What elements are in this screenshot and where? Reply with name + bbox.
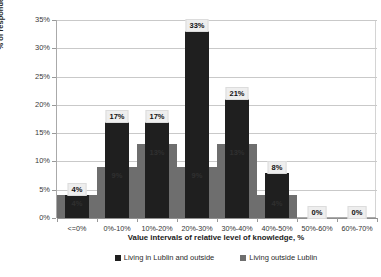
legend-label: Living in Lublin and outside	[124, 253, 214, 262]
x-axis-tick-label: 10%-20%	[141, 224, 172, 233]
data-label-series-a: 21%	[225, 87, 248, 100]
x-axis-tick-mark	[297, 218, 298, 222]
y-axis-tick-mark	[52, 161, 56, 162]
data-label-series-a: 0%	[308, 206, 327, 219]
y-axis-tick-mark	[52, 20, 56, 21]
y-axis-tick-mark	[52, 48, 56, 49]
chart-container: 4%17%17%33%21%8%0%0%4%9%13%9%13%4% <=0%0…	[0, 0, 381, 277]
y-axis-tick-label: 30%	[14, 44, 50, 52]
y-axis-tick-label: 5%	[14, 186, 50, 194]
x-axis-tick-mark	[137, 218, 138, 222]
legend-label: Living outside Lublin	[249, 253, 317, 262]
y-axis-tick-label: 25%	[14, 73, 50, 81]
y-axis-title: % of respondents	[0, 0, 5, 78]
y-axis-tick-mark	[52, 133, 56, 134]
data-label-series-a: 0%	[348, 206, 367, 219]
x-axis-tick-label: <=0%	[68, 224, 87, 233]
data-label-series-a: 4%	[68, 183, 87, 196]
data-label-series-b: 4%	[69, 198, 86, 209]
data-label-series-b: 13%	[146, 147, 167, 158]
x-axis-tick-label: 20%-30%	[181, 224, 212, 233]
x-axis-tick-mark	[57, 218, 58, 222]
data-label-series-b: 13%	[226, 147, 247, 158]
x-axis-title: Value intervals of relative level of kno…	[56, 233, 376, 242]
x-axis-tick-mark	[337, 218, 338, 222]
y-axis-tick-label: 35%	[14, 16, 50, 24]
data-label-series-a: 17%	[145, 110, 168, 123]
y-axis-tick-mark	[52, 218, 56, 219]
x-axis-tick-label: 0%-10%	[103, 224, 130, 233]
plot-area: 4%17%17%33%21%8%0%0%4%9%13%9%13%4% <=0%0…	[56, 20, 376, 218]
legend-swatch-icon	[115, 255, 121, 261]
data-label-series-b: 9%	[109, 170, 126, 181]
x-axis-tick-label: 60%-70%	[341, 224, 372, 233]
legend-item[interactable]: Living in Lublin and outside	[115, 253, 214, 262]
y-axis-tick-mark	[52, 77, 56, 78]
legend-item[interactable]: Living outside Lublin	[240, 253, 317, 262]
data-label-series-b: 4%	[269, 198, 286, 209]
y-axis-tick-label: 10%	[14, 157, 50, 165]
x-axis-tick-label: 40%-50%	[261, 224, 292, 233]
x-axis-tick-mark	[177, 218, 178, 222]
y-axis-tick-mark	[52, 105, 56, 106]
y-axis-tick-label: 0%	[14, 214, 50, 222]
y-axis-tick-label: 15%	[14, 129, 50, 137]
y-axis-tick-mark	[52, 190, 56, 191]
x-axis-tick-label: 50%-60%	[301, 224, 332, 233]
data-labels: 4%17%17%33%21%8%0%0%4%9%13%9%13%4%	[57, 20, 377, 218]
x-axis-tick-mark	[377, 218, 378, 222]
legend-swatch-icon	[240, 255, 246, 261]
x-axis-tick-mark	[257, 218, 258, 222]
data-label-series-b: 9%	[189, 170, 206, 181]
x-axis-tick-label: 30%-40%	[221, 224, 252, 233]
data-label-series-a: 8%	[268, 161, 287, 174]
x-axis-tick-mark	[97, 218, 98, 222]
data-label-series-a: 33%	[185, 19, 208, 32]
chart-legend: Living in Lublin and outsideLiving outsi…	[56, 253, 376, 262]
y-axis-tick-label: 20%	[14, 101, 50, 109]
data-label-series-a: 17%	[105, 110, 128, 123]
x-axis-tick-mark	[217, 218, 218, 222]
